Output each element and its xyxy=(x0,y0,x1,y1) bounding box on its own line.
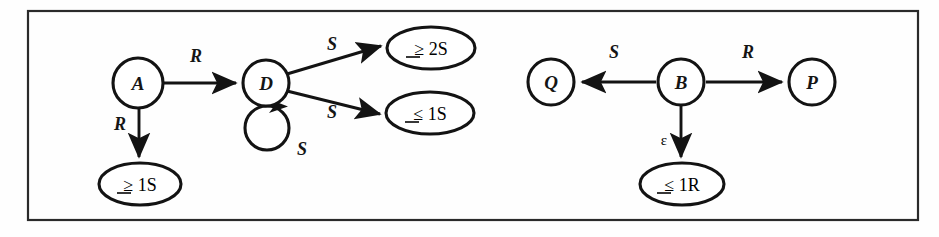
edge-A-to-D: R xyxy=(163,46,236,83)
node-le1R[interactable]: ≤ 1R xyxy=(640,163,724,205)
node-le1S[interactable]: ≤ 1S xyxy=(386,92,474,134)
edge-D-to-le1S: S xyxy=(287,91,380,122)
node-P[interactable]: P xyxy=(789,59,835,105)
edge-B-to-le1R: ε xyxy=(661,106,681,157)
edge-label-A-D: R xyxy=(189,46,202,66)
edge-B-to-Q: S xyxy=(582,42,656,82)
node-B[interactable]: B xyxy=(658,59,704,105)
edge-label-B-le1R: ε xyxy=(661,132,667,148)
edge-label-A-ge1S: R xyxy=(113,114,126,134)
node-A-label: A xyxy=(131,73,145,94)
node-A[interactable]: A xyxy=(113,58,163,108)
node-B-label: B xyxy=(674,72,688,93)
node-ge2S-label: ≥ 2S xyxy=(414,39,447,59)
edge-label-B-P: R xyxy=(741,42,754,62)
node-Q-label: Q xyxy=(544,72,558,93)
node-D[interactable]: D xyxy=(243,60,289,106)
state-diagram-svg: R R S S S xyxy=(0,0,939,237)
edge-D-self-loop: S xyxy=(245,100,307,160)
edge-B-to-P: R xyxy=(706,42,782,82)
node-ge2S[interactable]: ≥ 2S xyxy=(387,27,475,69)
figure-container: R R S S S xyxy=(0,0,939,237)
edge-label-D-self: S xyxy=(297,139,307,159)
edge-D-to-ge2S: S xyxy=(287,34,381,74)
edge-label-B-Q: S xyxy=(609,42,619,62)
edge-A-to-ge1S: R xyxy=(113,108,139,157)
right-graph: S R ε Q B xyxy=(528,42,835,205)
left-graph: R R S S S xyxy=(99,27,475,205)
node-ge1S[interactable]: ≥ 1S xyxy=(99,163,181,205)
node-le1R-label: ≤ 1R xyxy=(664,175,699,195)
self-loop-circle xyxy=(245,106,289,150)
edge-label-D-ge2S: S xyxy=(327,34,337,54)
node-D-label: D xyxy=(258,73,273,94)
node-ge1S-label: ≥ 1S xyxy=(123,175,156,195)
node-Q[interactable]: Q xyxy=(528,59,574,105)
node-P-label: P xyxy=(805,72,818,93)
node-le1S-label: ≤ 1S xyxy=(413,104,446,124)
edge-label-D-le1S: S xyxy=(327,102,337,122)
